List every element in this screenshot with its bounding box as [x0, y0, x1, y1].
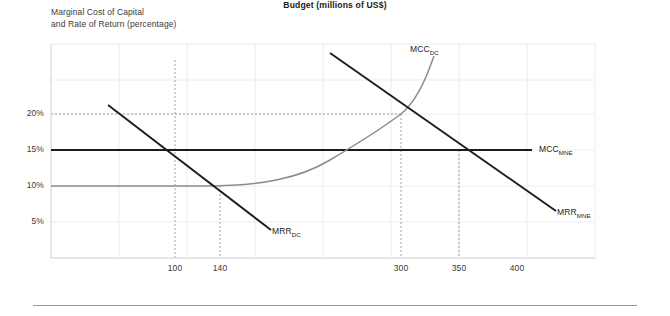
series-line-mrr-mne — [330, 53, 556, 211]
ytick-label-15: 15% — [10, 144, 44, 154]
series-label-mcc-mne-main: MCC — [539, 144, 559, 154]
series-label-mrr-mne-main: MRR — [557, 207, 577, 217]
series-line-mrr-dc — [108, 105, 271, 230]
xtick-label-350: 350 — [439, 263, 479, 273]
ytick-label-5: 5% — [10, 216, 44, 226]
bottom-divider — [33, 305, 637, 306]
series-label-mcc-mne-sub: MNE — [559, 149, 573, 156]
series-label-mrr-mne-sub: MNE — [577, 212, 591, 219]
xtick-label-400: 400 — [497, 263, 537, 273]
xtick-label-100: 100 — [155, 263, 195, 273]
xtick-label-140: 140 — [200, 263, 240, 273]
series-label-mcc-dc-main: MCC — [410, 44, 430, 54]
ytick-label-10: 10% — [10, 180, 44, 190]
series-label-mrr-dc-sub: DC — [292, 231, 301, 238]
series-label-mrr-mne: MRRMNE — [557, 207, 591, 219]
plot-area — [0, 0, 670, 316]
ytick-label-20: 20% — [10, 108, 44, 118]
grid-lines — [51, 44, 595, 258]
xtick-label-300: 300 — [381, 263, 421, 273]
series-label-mcc-dc: MCCDC — [410, 44, 439, 56]
series-label-mrr-dc-main: MRR — [272, 226, 292, 236]
series-label-mcc-dc-sub: DC — [430, 49, 439, 56]
series-label-mcc-mne: MCCMNE — [539, 144, 573, 156]
figure-container: Marginal Cost of Capitaland Rate of Retu… — [0, 0, 670, 316]
series-label-mrr-dc: MRRDC — [272, 226, 301, 238]
series-curve-mcc-dc — [51, 56, 434, 186]
